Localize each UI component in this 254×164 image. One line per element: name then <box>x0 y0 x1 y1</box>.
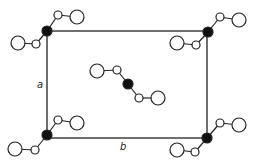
open-atom <box>135 94 143 102</box>
open-atom <box>11 36 25 50</box>
open-atom <box>191 148 199 156</box>
open-atom <box>232 118 246 132</box>
open-atom <box>70 116 84 130</box>
open-atom <box>170 36 184 50</box>
solid-atom <box>42 130 52 140</box>
open-atom <box>113 66 121 74</box>
open-atom <box>32 40 40 48</box>
open-atom <box>8 142 22 156</box>
molecule-bottom-left <box>8 116 84 156</box>
open-atom <box>216 119 224 127</box>
open-atom <box>31 146 39 154</box>
open-atom <box>216 13 224 21</box>
unit-cell-diagram: a b <box>0 0 254 164</box>
molecule-center <box>90 64 165 105</box>
molecules <box>8 10 246 157</box>
open-atom <box>90 64 104 78</box>
open-atom <box>170 143 184 157</box>
solid-atom <box>202 133 212 143</box>
solid-atom <box>203 27 213 37</box>
solid-atom <box>123 79 133 89</box>
open-atom <box>54 11 62 19</box>
open-atom <box>192 41 200 49</box>
open-atom <box>70 10 84 24</box>
axis-label-a: a <box>37 79 43 90</box>
open-atom <box>232 13 246 27</box>
open-atom <box>151 91 165 105</box>
axis-label-b: b <box>120 141 126 152</box>
open-atom <box>54 116 62 124</box>
solid-atom <box>42 26 52 36</box>
